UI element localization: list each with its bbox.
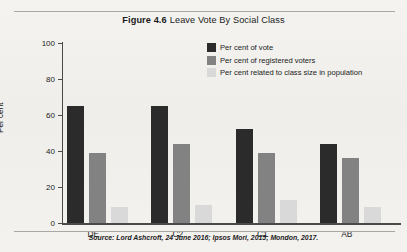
bar-group: AB — [317, 43, 402, 223]
bottom-divider — [14, 231, 395, 232]
y-axis-tick-label: 40 — [46, 147, 55, 156]
bar — [111, 207, 128, 223]
bar — [320, 144, 337, 223]
bar — [89, 153, 106, 223]
figure-title-text: Leave Vote By Social Class — [170, 15, 285, 25]
bar-group: C2 — [148, 43, 233, 223]
bar — [67, 106, 84, 223]
bar — [195, 205, 212, 223]
bar — [236, 129, 253, 223]
y-axis-tick-label: 80 — [46, 75, 55, 84]
plot-area: DEC2C1AB — [63, 43, 401, 223]
x-axis-line — [62, 223, 401, 225]
source-note: Source: Lord Ashcroft, 24 June 2016; Ips… — [0, 234, 407, 241]
bar — [280, 200, 297, 223]
y-axis-tick-label: 100 — [42, 39, 55, 48]
bar — [173, 144, 190, 223]
y-axis-title: Per cent — [0, 103, 5, 134]
bar — [342, 158, 359, 223]
bar — [151, 106, 168, 223]
bar — [258, 153, 275, 223]
y-axis-tick-label: 60 — [46, 111, 55, 120]
y-axis-tick-label: 0 — [51, 219, 55, 228]
figure-number: Figure 4.6 — [122, 15, 166, 25]
bar-group: DE — [63, 43, 148, 223]
bar — [364, 207, 381, 223]
y-axis-tick-label: 20 — [46, 183, 55, 192]
top-divider — [14, 11, 395, 12]
bar-group: C1 — [232, 43, 317, 223]
y-axis-ticks: 020406080100 — [0, 43, 62, 224]
figure-container: Figure 4.6Leave Vote By Social Class Per… — [0, 0, 407, 252]
figure-title: Figure 4.6Leave Vote By Social Class — [0, 15, 407, 25]
